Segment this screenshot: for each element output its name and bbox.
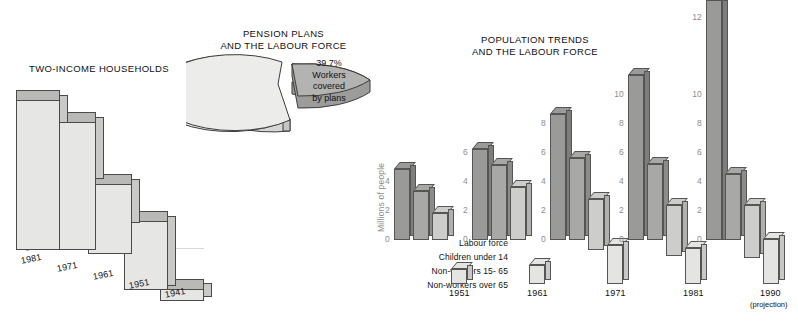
bar-1961-non-workers-over-65 bbox=[529, 258, 545, 284]
pop-xlabel-1981: 1981 bbox=[683, 288, 704, 298]
pop-1981-ytick-2: 2 bbox=[612, 205, 624, 215]
pop-chart-title-line2: AND THE LABOUR FORCE bbox=[425, 46, 645, 58]
legend-non-workers-15-65: Non-workers 15- 65 bbox=[330, 266, 508, 276]
bar-1971-labour-force bbox=[550, 107, 566, 240]
bar-1971-children-under-14 bbox=[569, 151, 585, 240]
pop-1981-ytick-0: 0 bbox=[612, 234, 624, 244]
pop-1961-ytick-4: 4 bbox=[456, 176, 468, 186]
bar-1961-labour-force bbox=[472, 142, 488, 240]
step-1951-side bbox=[167, 216, 176, 286]
pop-1990-ytick-6: 6 bbox=[690, 147, 702, 157]
pop-1951-ytick-0: 0 bbox=[378, 234, 390, 244]
pop-xlabel-1961: 1961 bbox=[527, 288, 548, 298]
pop-1990-ytick-4: 4 bbox=[690, 176, 702, 186]
pop-1981-ytick-10: 10 bbox=[610, 89, 624, 99]
pop-chart-title-line1: POPULATION TRENDS bbox=[425, 34, 645, 46]
pop-1981-ytick-6: 6 bbox=[612, 147, 624, 157]
left-xlabel-1961: 1961 bbox=[92, 268, 114, 282]
left-xlabel-1981: 1981 bbox=[20, 252, 42, 266]
population-trends-chart: POPULATION TRENDS AND THE LABOUR FORCE M… bbox=[330, 0, 798, 326]
pop-1971-ytick-0: 0 bbox=[534, 234, 546, 244]
bar-1990-non-workers-15-65 bbox=[744, 198, 760, 258]
step-1971-side bbox=[95, 117, 104, 179]
pop-1990-ytick-2: 2 bbox=[690, 205, 702, 215]
bar-1961-children-under-14 bbox=[491, 158, 507, 240]
pop-xlabel-1990: 1990 bbox=[760, 288, 781, 298]
pop-1990-ytick-0: 0 bbox=[690, 234, 702, 244]
pop-1951-ytick-4: 4 bbox=[378, 176, 390, 186]
pop-1971-ytick-4: 4 bbox=[534, 176, 546, 186]
pop-1971-ytick-2: 2 bbox=[534, 205, 546, 215]
pop-xlabel-1971: 1971 bbox=[605, 288, 626, 298]
bar-1971-non-workers-15-65 bbox=[588, 192, 604, 250]
pop-xlabel-1951: 1951 bbox=[449, 288, 470, 298]
bar-1990-non-workers-over-65 bbox=[763, 232, 779, 284]
pop-1961-ytick-0: 0 bbox=[456, 234, 468, 244]
pop-1990-ytick-8: 8 bbox=[690, 118, 702, 128]
pop-1990-ytick-12: 12 bbox=[688, 12, 702, 22]
step-1961-side bbox=[131, 179, 140, 223]
pop-1981-ytick-4: 4 bbox=[612, 176, 624, 186]
bar-1971-non-workers-over-65 bbox=[607, 238, 623, 284]
pop-1961-ytick-6: 6 bbox=[456, 147, 468, 157]
bar-1951-children-under-14 bbox=[413, 184, 429, 240]
pop-1971-ytick-6: 6 bbox=[534, 147, 546, 157]
step-1941-side bbox=[203, 283, 212, 297]
bar-1990-children-under-14 bbox=[725, 167, 741, 240]
legend-non-workers-over-65: Non-workers over 65 bbox=[330, 280, 508, 290]
bar-1981-labour-force bbox=[628, 68, 644, 240]
bar-1981-children-under-14 bbox=[647, 157, 663, 240]
legend-children-under-14: Children under 14 bbox=[330, 252, 508, 262]
pop-1961-ytick-2: 2 bbox=[456, 205, 468, 215]
bar-1961-non-workers-15-65 bbox=[510, 180, 526, 240]
pop-1971-ytick-8: 8 bbox=[534, 118, 546, 128]
pop-xlabel-1990-projection: (projection) bbox=[750, 300, 788, 309]
bar-1981-non-workers-over-65 bbox=[685, 241, 701, 284]
left-xlabel-1971: 1971 bbox=[56, 260, 78, 274]
bar-1990-labour-force bbox=[706, 0, 722, 240]
pop-1951-ytick-2: 2 bbox=[378, 205, 390, 215]
pie-slice-not-covered bbox=[186, 55, 290, 132]
step-1981-face bbox=[16, 100, 60, 250]
left-chart-title: TWO-INCOME HOUSEHOLDS bbox=[14, 63, 184, 75]
bar-1951-non-workers-15-65 bbox=[432, 206, 448, 240]
pop-1981-ytick-8: 8 bbox=[612, 118, 624, 128]
bar-1981-non-workers-15-65 bbox=[666, 198, 682, 256]
bar-1951-non-workers-over-65 bbox=[451, 262, 467, 284]
step-1981-side bbox=[59, 95, 68, 123]
pop-1990-ytick-10: 10 bbox=[688, 89, 702, 99]
pop-y-axis-label: Millions of people bbox=[376, 163, 386, 232]
bar-1951-labour-force bbox=[394, 162, 410, 240]
